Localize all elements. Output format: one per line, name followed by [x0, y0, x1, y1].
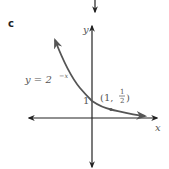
- point-label-denominator: 2: [120, 97, 124, 105]
- exponential-curve: [55, 40, 145, 116]
- exponential-graph: c y x 1 y = 2 −x (1, 1 2 ): [0, 0, 169, 169]
- panel-label: c: [8, 18, 14, 29]
- equation-lhs: y = 2: [24, 74, 52, 85]
- point-marker: [109, 108, 112, 111]
- point-label-close: ): [126, 92, 130, 103]
- y-intercept-label: 1: [83, 95, 89, 106]
- equation-exponent: −x: [59, 72, 68, 80]
- point-label-numerator: 1: [120, 88, 124, 96]
- point-label-open: (1,: [100, 92, 113, 103]
- point-label: (1, 1 2 ): [100, 88, 130, 105]
- x-axis-label: x: [155, 122, 161, 133]
- y-axis-label: y: [82, 24, 89, 35]
- equation-label: y = 2 −x: [24, 72, 68, 85]
